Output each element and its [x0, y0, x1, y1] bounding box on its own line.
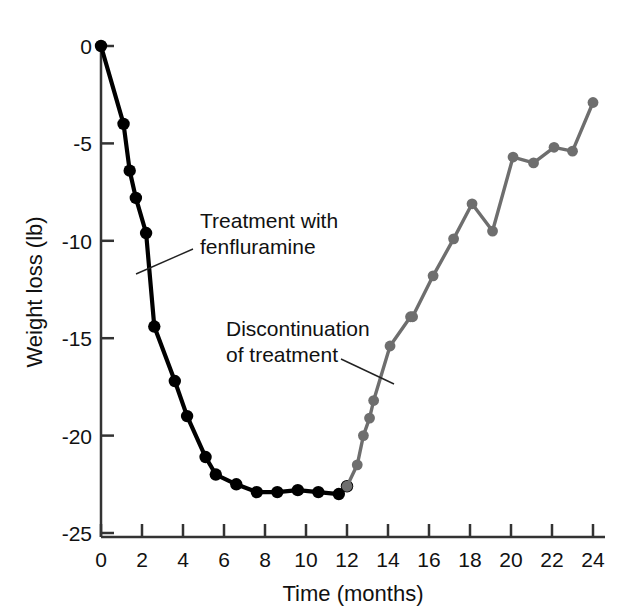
- x-tick-label: 24: [581, 548, 605, 571]
- x-tick-label: 12: [335, 548, 358, 571]
- data-point: [364, 413, 375, 424]
- treatment-annotation-text: Treatment with: [200, 209, 338, 232]
- y-tick-label: -10: [62, 230, 92, 253]
- x-tick-label: 4: [177, 548, 189, 571]
- y-axis-title: Weight loss (lb): [22, 216, 47, 367]
- data-point: [342, 481, 353, 492]
- treatment-annotation-leader-line: [136, 249, 193, 274]
- y-tick-label: -25: [62, 522, 92, 545]
- x-tick-label: 8: [259, 548, 271, 571]
- y-tick-label: -5: [73, 132, 92, 155]
- data-point: [448, 233, 459, 244]
- series-1: [95, 40, 353, 500]
- series-line: [101, 46, 347, 494]
- annotation-layer: Treatment withfenfluramineDiscontinuatio…: [136, 209, 394, 384]
- data-point: [271, 486, 283, 498]
- x-tick-label: 10: [294, 548, 317, 571]
- data-point: [230, 478, 242, 490]
- data-series-layer: [95, 40, 599, 500]
- data-point: [312, 486, 324, 498]
- data-point: [124, 164, 136, 176]
- x-tick-label: 16: [417, 548, 440, 571]
- data-point: [358, 430, 369, 441]
- y-axis-ticks: [101, 46, 114, 533]
- treatment-annotation-text: fenfluramine: [200, 235, 316, 258]
- data-point: [428, 270, 439, 281]
- series-2: [342, 97, 599, 492]
- series-line: [347, 102, 593, 486]
- data-point: [407, 311, 418, 322]
- discontinuation-annotation: Discontinuationof treatment: [226, 317, 394, 384]
- data-point: [169, 375, 181, 387]
- treatment-annotation: Treatment withfenfluramine: [136, 209, 338, 274]
- data-point: [95, 40, 107, 52]
- data-point: [368, 395, 379, 406]
- discontinuation-annotation-text: Discontinuation: [226, 317, 370, 340]
- data-point: [117, 118, 129, 130]
- y-tick-label: 0: [80, 35, 92, 58]
- data-point: [181, 410, 193, 422]
- data-point: [352, 459, 363, 470]
- x-axis-title: Time (months): [283, 581, 424, 606]
- data-point: [385, 341, 396, 352]
- data-point: [251, 486, 263, 498]
- x-tick-label: 2: [136, 548, 148, 571]
- data-point: [567, 146, 578, 157]
- y-tick-label: -15: [62, 327, 92, 350]
- data-point: [130, 192, 142, 204]
- data-point: [199, 451, 211, 463]
- x-tick-label: 18: [458, 548, 481, 571]
- discontinuation-annotation-text: of treatment: [226, 343, 338, 366]
- data-point: [588, 97, 599, 108]
- data-point: [467, 198, 478, 209]
- data-point: [487, 226, 498, 237]
- x-axis-tick-labels: 024681012141618202224: [95, 548, 605, 571]
- chart-figure: 0-5-10-15-20-25 024681012141618202224 Tr…: [0, 0, 644, 615]
- x-axis-ticks: [101, 524, 593, 537]
- data-point: [210, 468, 222, 480]
- data-point: [140, 227, 152, 239]
- weight-loss-line-chart: 0-5-10-15-20-25 024681012141618202224 Tr…: [0, 0, 644, 615]
- data-point: [292, 484, 304, 496]
- data-point: [549, 142, 560, 153]
- data-point: [148, 320, 160, 332]
- data-point: [528, 157, 539, 168]
- x-tick-label: 20: [499, 548, 522, 571]
- x-tick-label: 14: [376, 548, 400, 571]
- y-tick-label: -20: [62, 425, 92, 448]
- x-tick-label: 0: [95, 548, 107, 571]
- x-tick-label: 22: [540, 548, 563, 571]
- data-point: [508, 152, 519, 163]
- y-axis-tick-labels: 0-5-10-15-20-25: [62, 35, 92, 545]
- x-tick-label: 6: [218, 548, 230, 571]
